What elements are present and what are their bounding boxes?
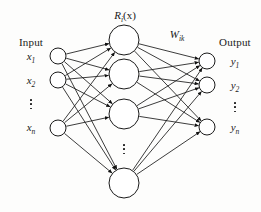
connection-edge-hid4-to-out3 [137, 132, 200, 175]
input-labels-ellipsis-icon [8, 99, 54, 109]
ellipsis-dot [123, 153, 125, 155]
connection-edge-in3-to-hid3 [66, 117, 109, 126]
input-node-label-1-sub: 1 [32, 56, 36, 65]
ellipsis-dot [30, 99, 32, 101]
input-heading: Input [8, 37, 54, 48]
output-node-label-2: y2 [211, 80, 259, 94]
output-node-label-1: y1 [211, 56, 259, 70]
connection-edge-hid3-to-out3 [139, 116, 198, 125]
connection-edge-in1-to-hid4 [62, 64, 117, 170]
hidden-function-arg: (x) [123, 9, 136, 21]
output-node-label-1-sub: 1 [236, 61, 240, 70]
hidden-node-2 [109, 59, 139, 89]
neural-network-diagram: Input x1 x2 xn Output y1 y2 yn Ri(x) Wik [0, 0, 261, 212]
connection-edge-hid1-to-out1 [139, 44, 199, 59]
hidden-node-4 [109, 168, 139, 198]
input-node-label-1: x1 [8, 51, 54, 65]
ellipsis-dot [30, 103, 32, 105]
ellipsis-dot [123, 148, 125, 150]
hidden-node-1 [109, 25, 139, 55]
input-node-label-2-sub: 2 [32, 80, 36, 89]
output-node-label-2-sub: 2 [236, 85, 240, 94]
output-labels-ellipsis-icon [211, 102, 259, 112]
input-node-label-2: x2 [8, 75, 54, 89]
output-node-label-n-sub: n [236, 127, 240, 136]
hidden-node-3 [109, 99, 139, 129]
connection-edge-in3-to-hid2 [65, 84, 112, 123]
connection-edge-hid2-to-out3 [137, 82, 200, 122]
input-node-label-n-sub: n [32, 127, 36, 136]
ellipsis-dot [234, 111, 236, 113]
weights-base: W [170, 28, 179, 40]
connection-edge-in1-to-hid1 [66, 44, 109, 54]
node-group [50, 25, 215, 198]
connection-edge-hid4-to-out1 [133, 68, 203, 170]
output-node-label-n: yn [211, 122, 259, 136]
hidden-function-base: R [114, 9, 121, 21]
input-node-label-n: xn [8, 122, 54, 136]
connection-edge-hid2-to-out2 [139, 76, 198, 84]
weights-label: Wik [157, 29, 197, 43]
hidden-layer-ellipsis-icon [112, 144, 136, 154]
connection-edge-in2-to-hid2 [66, 75, 108, 79]
hidden-function-label: Ri(x) [99, 10, 151, 24]
ellipsis-dot [234, 106, 236, 108]
ellipsis-dot [123, 144, 125, 146]
output-heading: Output [211, 37, 259, 48]
ellipsis-dot [234, 102, 236, 104]
connection-edge-hid4-to-out2 [134, 91, 201, 171]
connection-edge-hid2-to-out1 [139, 62, 198, 71]
ellipsis-dot [30, 108, 32, 110]
weights-sub: ik [179, 34, 184, 43]
